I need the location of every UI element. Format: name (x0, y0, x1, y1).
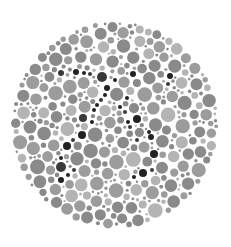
color-vision-test-plate (0, 0, 231, 247)
background-dots (11, 22, 218, 228)
dot-pattern-plate (0, 0, 231, 247)
